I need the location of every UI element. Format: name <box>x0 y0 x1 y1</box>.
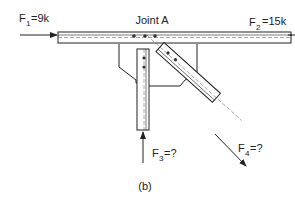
svg-text:=?: =? <box>250 142 263 154</box>
svg-text:=15k: =15k <box>262 15 287 27</box>
diagonal-member <box>143 30 246 125</box>
force-label-f3: F 3 =? <box>152 147 177 163</box>
svg-text:F: F <box>238 142 245 154</box>
svg-text:F: F <box>249 16 256 28</box>
svg-text:=?: =? <box>164 147 177 159</box>
vertical-member <box>137 49 149 130</box>
rivet-icon <box>153 34 157 38</box>
rivet-icon <box>132 34 136 38</box>
svg-text:F: F <box>152 147 159 159</box>
force-label-f2: F 2 =15k <box>249 15 287 32</box>
svg-text:2: 2 <box>256 23 261 32</box>
joint-title: Joint A <box>135 14 169 26</box>
svg-text:F: F <box>19 12 26 24</box>
rivet-icon <box>142 65 145 68</box>
svg-text:=9k: =9k <box>31 12 50 24</box>
rivet-icon <box>143 34 147 38</box>
horizontal-member <box>58 32 291 43</box>
figure-caption: (b) <box>138 180 151 192</box>
force-label-f4: F 4 =? <box>238 142 263 158</box>
force-label-f1: F 1 =9k <box>19 12 50 28</box>
joint-diagram: Joint A F 1 =9k F 2 =15k F 3 =? F 4 =? (… <box>0 0 295 206</box>
rivet-icon <box>142 56 145 59</box>
